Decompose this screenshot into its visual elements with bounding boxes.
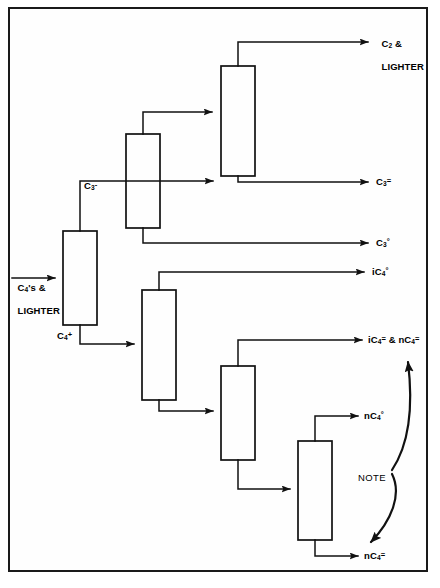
stream-col1-overhead	[80, 181, 213, 231]
label-ic4-nc4-olefin: iC4= & nC4=	[368, 334, 420, 348]
label-ic4-paraffin: iC4°	[372, 266, 389, 280]
column-box-col1	[63, 231, 97, 325]
column-box-col4	[142, 290, 176, 400]
process-flow-lines	[0, 0, 440, 588]
label-c3-olefin: C3=	[376, 176, 391, 190]
note-brace-upper-arrow	[392, 362, 410, 470]
stream-col4-overhead	[159, 272, 364, 290]
stream-col5-bottoms	[238, 460, 290, 489]
label-c4-plus: C4+	[57, 330, 72, 344]
label-c3-paraffin: C3°	[376, 237, 390, 251]
stream-col3-overhead	[238, 42, 368, 66]
label-c3-minus: C3-	[84, 180, 97, 194]
stream-col2-bottoms	[143, 228, 368, 243]
stream-col2-overhead	[143, 112, 212, 134]
stream-col3-bottoms	[238, 176, 368, 182]
label-feed-line1: C4's &	[17, 282, 45, 293]
label-feed: C4's & LIGHTER	[12, 272, 60, 316]
label-note: NOTE	[358, 472, 386, 483]
stream-col4-bottoms	[159, 400, 213, 411]
label-feed-line2: LIGHTER	[17, 305, 59, 316]
column-box-col3	[221, 66, 255, 176]
stream-col6-overhead	[315, 416, 358, 441]
label-c2-and-lighter: C2 & LIGHTER	[376, 28, 424, 72]
stream-col6-bottoms	[315, 540, 358, 556]
note-brace-lower-arrow	[371, 474, 396, 542]
stream-col5-overhead	[238, 340, 362, 366]
column-box-col6	[298, 441, 332, 540]
label-c2-line2: LIGHTER	[381, 61, 423, 72]
label-nc4-paraffin: nC4°	[364, 410, 384, 424]
label-c2-line1: C2 &	[381, 38, 401, 49]
column-box-col5	[221, 366, 255, 460]
stream-col1-bottoms	[80, 325, 134, 344]
label-nc4-olefin: nC4=	[364, 550, 385, 564]
